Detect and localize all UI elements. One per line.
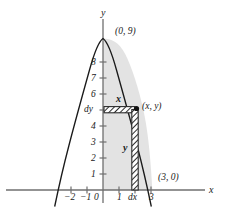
y-tick-label-6: 6: [91, 90, 96, 100]
y-tick-label-dy: dy: [84, 105, 93, 115]
horizontal-strip: [104, 107, 135, 113]
y-tick-label-8: 8: [91, 58, 96, 68]
vertex-point-label: (0, 9): [115, 27, 136, 37]
shaded-region: [103, 39, 152, 191]
y-tick-label-3: 3: [91, 138, 96, 148]
x-tick-label-minus2: −2: [64, 193, 75, 203]
y-axis-label: y: [101, 8, 105, 18]
y-tick-label-1: 1: [91, 170, 96, 180]
x-intercept-point-label: (3, 0): [158, 173, 179, 183]
x-tick-label-dx: dx: [128, 193, 137, 203]
curve-point-marker: [134, 106, 139, 111]
y-tick-label-7: 7: [91, 74, 96, 84]
plot-canvas: [0, 0, 225, 216]
x-tick-label-3: 3: [149, 193, 154, 203]
horizontal-strip-label: x: [116, 94, 121, 104]
origin-label: 0: [94, 193, 99, 203]
parabola-figure: y x 0 −2 −1 1 dx 3 1 2 3 4 dy 6 7 8 (0, …: [0, 0, 225, 216]
y-tick-label-2: 2: [91, 154, 96, 164]
x-tick-label-1: 1: [117, 193, 122, 203]
x-tick-label-minus1: −1: [80, 193, 91, 203]
vertical-strip: [132, 110, 138, 191]
vertical-strip-label: y: [123, 143, 127, 153]
curve-point-label: (x, y): [142, 102, 162, 112]
y-tick-label-4: 4: [91, 122, 96, 132]
x-axis-label: x: [209, 185, 213, 195]
